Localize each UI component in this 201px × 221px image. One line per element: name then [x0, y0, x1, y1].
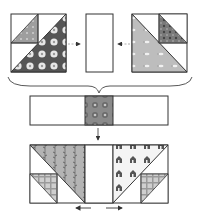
- assembled-row: [30, 145, 168, 203]
- center-rectangle: [86, 14, 113, 72]
- left-hst-unit: [11, 14, 66, 72]
- grouping-brace: [8, 77, 192, 93]
- right-hst-unit: [132, 14, 187, 72]
- quilt-assembly-diagram: [0, 0, 201, 221]
- row-strip: [30, 96, 168, 125]
- center-print-square: [85, 96, 113, 125]
